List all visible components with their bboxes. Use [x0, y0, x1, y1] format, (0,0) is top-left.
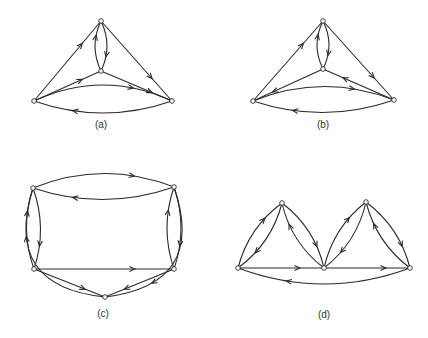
edge-b-R-to-C [323, 69, 394, 100]
node-a-R [170, 99, 175, 104]
node-a-T [99, 19, 104, 24]
node-c-TL [31, 186, 36, 191]
edge-d-M-to-T2 [324, 202, 366, 268]
node-d-L [236, 266, 241, 271]
graph-panel-c [24, 173, 182, 297]
edge-d-T1-to-M [282, 203, 324, 268]
edge-b-R-to-L [253, 100, 394, 113]
edge-c-TL-to-TR [33, 173, 174, 188]
edge-b-L-to-T [253, 21, 323, 101]
edge-d-T1-to-L [238, 203, 282, 268]
edge-b-C-to-T [317, 21, 323, 69]
edge-a-R-to-L [34, 101, 172, 113]
node-c-TR [172, 185, 177, 190]
node-b-T [321, 19, 326, 24]
node-d-R [408, 266, 413, 271]
edge-c-TR-to-B [105, 187, 182, 297]
edge-c-BR-to-TR [167, 187, 174, 269]
edge-b-C-to-L [253, 69, 323, 101]
edge-a-C-to-T [95, 21, 101, 71]
edge-d-T2-to-R [366, 202, 410, 268]
edge-c-BR-to-B [105, 269, 174, 297]
edge-d-R-to-T2 [366, 202, 410, 268]
graph-panel-a [34, 21, 172, 114]
edge-c-BL-to-B [34, 269, 105, 297]
node-d-T1 [280, 201, 285, 206]
edge-c-TR-to-TL [33, 187, 174, 200]
node-b-R [392, 98, 397, 103]
node-c-BR [172, 267, 177, 272]
edge-b-T-to-R [323, 21, 394, 100]
edge-a-T-to-C [101, 21, 107, 71]
node-d-T2 [364, 200, 369, 205]
node-c-B [103, 295, 108, 300]
node-c-BL [32, 267, 37, 272]
edge-c-TL-to-BL [33, 188, 41, 269]
panel-label-c: (c) [97, 308, 109, 319]
node-a-C [99, 69, 104, 74]
nodes-layer [31, 19, 413, 300]
panel-label-d: (d) [318, 309, 330, 320]
edge-b-L-to-R [253, 86, 394, 101]
node-b-C [321, 67, 326, 72]
edge-c-BL-to-TL [26, 188, 34, 269]
edge-b-T-to-C [323, 21, 329, 69]
node-b-L [251, 99, 256, 104]
node-d-M [322, 266, 327, 271]
panel-label-b: (b) [317, 119, 329, 130]
graph-panel-d [238, 202, 410, 284]
edge-d-L-to-T1 [238, 203, 282, 268]
directed-graph-figure: (a) (b) (c) (d) [0, 0, 428, 338]
edge-a-L-to-R [34, 85, 172, 101]
edge-d-T2-to-M [324, 202, 366, 268]
node-a-L [32, 99, 37, 104]
edge-d-M-to-T1 [282, 203, 324, 268]
panel-label-a: (a) [95, 119, 107, 130]
edges-layer [24, 21, 410, 297]
